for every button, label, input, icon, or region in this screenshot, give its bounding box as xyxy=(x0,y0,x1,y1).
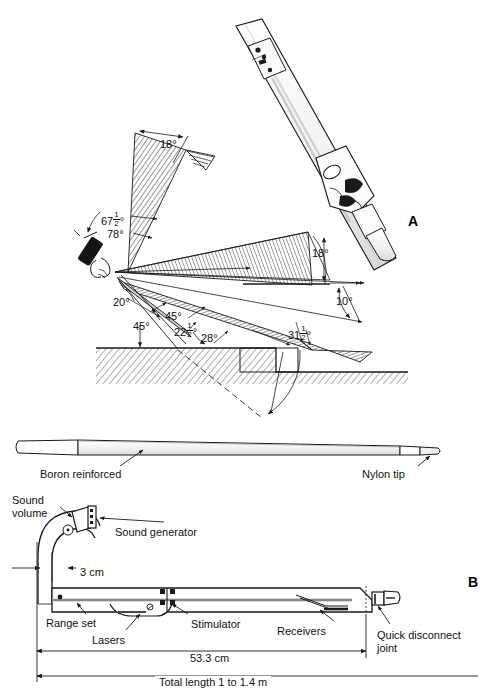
control-module xyxy=(248,38,286,79)
label-quick-disconnect-joint: Quick disconnectjoint xyxy=(377,629,461,654)
label-sound-volume: Soundvolume xyxy=(12,494,47,519)
angle-label-up-beam-spread: 18° xyxy=(160,138,177,151)
angle-label-down-beam-lower: 45° xyxy=(133,320,150,333)
label-lasers: Lasers xyxy=(92,634,125,647)
label-nylon-tip: Nylon tip xyxy=(362,468,405,481)
hand-grip xyxy=(316,146,374,214)
angle-label-forward-beam-spread: 18° xyxy=(312,247,329,260)
dimension-total-length: Total length 1 to 1.4 m xyxy=(155,676,271,689)
angle-label-down-beam-upper: 45° xyxy=(165,310,182,323)
angle-label-cane-to-up-beam: 6712° xyxy=(101,211,124,228)
label-boron-reinforced: Boron reinforced xyxy=(40,468,121,481)
sound-generator-block xyxy=(63,506,96,535)
angle-label-forward-beam-depress: 10° xyxy=(336,295,353,308)
angle-label-cane-elevation: 78° xyxy=(107,228,124,241)
panel-label-a: A xyxy=(408,213,418,229)
diagram-artwork xyxy=(0,0,497,696)
label-stimulator: Stimulator xyxy=(191,618,241,631)
panel-label-b: B xyxy=(468,574,478,590)
up-beam-fan xyxy=(88,131,215,272)
label-range-set: Range set xyxy=(46,617,96,630)
angle-label-step-detect-angle: 3112° xyxy=(288,325,311,342)
cane-pictorial xyxy=(236,19,396,270)
dimension-crook-depth: 3 cm xyxy=(76,566,108,579)
figure-root: 18°6712°78°18°10°20°45°45°2212°28°3112°B… xyxy=(0,0,497,696)
hand-holding-cane xyxy=(74,230,110,278)
cane-shaft-drawing xyxy=(16,440,440,466)
label-receivers: Receivers xyxy=(277,625,326,638)
angle-label-down-beam-to-ground: 28° xyxy=(201,332,218,345)
angle-label-down-beam-from-cane: 20° xyxy=(113,296,130,309)
cane-head-drawing xyxy=(12,506,478,682)
angle-label-down-beam-spread: 2212° xyxy=(174,322,197,339)
label-sound-generator: Sound generator xyxy=(115,526,197,539)
dimension-head-length: 53.3 cm xyxy=(186,652,233,665)
